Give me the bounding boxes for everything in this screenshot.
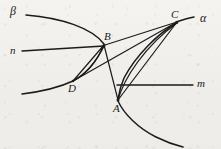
- segment-a-c: [118, 22, 177, 100]
- segment-b-c: [105, 22, 177, 45]
- line-m-label: m: [197, 78, 205, 89]
- segment-b-a: [104, 45, 118, 100]
- point-b-dot: [103, 44, 106, 47]
- geometry-svg: [0, 0, 221, 149]
- point-b-label: B: [104, 31, 111, 42]
- point-c-label: C: [171, 9, 178, 20]
- point-c-dot: [176, 21, 179, 24]
- plane-beta-label: β: [10, 5, 16, 17]
- figure-canvas: β α n m B D A C: [0, 0, 221, 149]
- alpha-trace-lower-curve: [118, 101, 183, 147]
- line-n: [22, 46, 104, 51]
- segment-d-b: [73, 45, 104, 81]
- plane-alpha-label: α: [200, 12, 206, 24]
- alpha-trace-upper-curve: [176, 17, 194, 22]
- beta-trace-curve: [26, 15, 104, 44]
- point-d-label: D: [68, 83, 76, 94]
- point-a-label: A: [113, 103, 120, 114]
- line-n-label: n: [10, 45, 16, 56]
